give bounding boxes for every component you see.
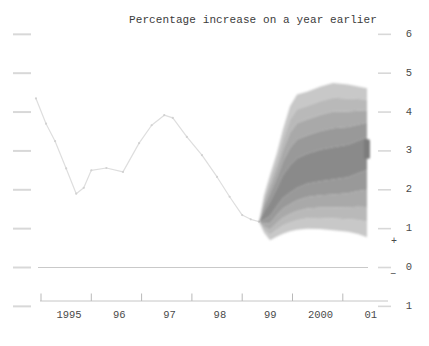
plus-sign: +	[388, 236, 400, 247]
x-axis-label: 97	[153, 309, 187, 321]
x-axis-label: 01	[354, 309, 388, 321]
y-axis-label: 2	[401, 183, 417, 196]
y-axis-label: 3	[401, 144, 417, 157]
history-point	[138, 142, 140, 144]
fan-projection	[259, 83, 370, 240]
y-axis-label: 6	[401, 28, 417, 41]
history-point	[201, 154, 203, 156]
history-point	[105, 167, 107, 169]
history-point	[163, 114, 165, 116]
history-point	[186, 136, 188, 138]
history-point	[75, 193, 77, 195]
plot-area	[0, 0, 429, 346]
x-axis-label: 98	[203, 309, 237, 321]
fan-chart: Percentage increase on a year earlier 65…	[0, 0, 429, 346]
history-point	[65, 167, 67, 169]
y-axis-label: 0	[401, 261, 417, 274]
minus-sign: −	[387, 269, 399, 280]
y-axis-label: 5	[401, 67, 417, 80]
history-point	[54, 140, 56, 142]
history-line	[36, 98, 259, 221]
x-axis-label: 99	[253, 309, 287, 321]
history-point	[122, 171, 124, 173]
x-axis-label: 96	[102, 309, 136, 321]
y-axis-label: 4	[401, 106, 417, 119]
history-point	[241, 214, 243, 216]
history-point	[45, 123, 47, 125]
history-point	[216, 176, 218, 178]
history-point	[250, 218, 252, 220]
history-point	[229, 196, 231, 198]
y-axis-label: 1	[401, 222, 417, 235]
history-point	[151, 124, 153, 126]
fan-end-marker	[364, 139, 370, 158]
history-point	[83, 187, 85, 189]
x-axis-label: 2000	[304, 309, 338, 321]
x-axis-label: 1995	[52, 309, 86, 321]
history-point	[90, 169, 92, 171]
history-point	[35, 97, 37, 99]
y-axis-label: 1	[401, 300, 417, 313]
history-point	[172, 117, 174, 119]
